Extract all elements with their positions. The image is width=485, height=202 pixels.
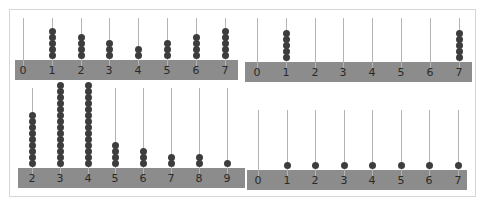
rod-label: 6	[136, 173, 150, 185]
bead	[284, 162, 291, 169]
rod	[23, 18, 24, 66]
rod-label: 6	[423, 67, 437, 79]
rod	[430, 18, 431, 68]
rod-label: 3	[53, 173, 67, 185]
bead	[456, 48, 463, 55]
bead	[106, 52, 113, 59]
bead	[283, 36, 290, 43]
rod-label: 2	[308, 67, 322, 79]
rod-label: 3	[336, 67, 350, 79]
bead	[85, 88, 92, 95]
bead	[341, 162, 348, 169]
bead	[78, 46, 85, 53]
bead	[164, 52, 171, 59]
bead	[57, 136, 64, 143]
bead	[29, 154, 36, 161]
rod-label: 0	[251, 175, 265, 187]
bead	[106, 46, 113, 53]
bead	[78, 52, 85, 59]
bead	[57, 82, 64, 89]
bead	[85, 112, 92, 119]
bead	[57, 106, 64, 113]
bead	[85, 100, 92, 107]
bead	[193, 34, 200, 41]
bead	[49, 52, 56, 59]
bead	[193, 46, 200, 53]
bead	[29, 112, 36, 119]
rod-label: 7	[451, 175, 465, 187]
bead	[85, 106, 92, 113]
bead	[164, 46, 171, 53]
bead	[49, 46, 56, 53]
bead	[57, 124, 64, 131]
rod	[401, 18, 402, 68]
rod-label: 4	[365, 175, 379, 187]
rod-label: 1	[279, 67, 293, 79]
rod-label: 1	[45, 65, 59, 77]
bead	[283, 42, 290, 49]
bead	[29, 136, 36, 143]
bead	[49, 28, 56, 35]
bead	[29, 118, 36, 125]
bead	[456, 42, 463, 49]
bead	[164, 40, 171, 47]
bead	[224, 160, 231, 167]
rod-label: 5	[394, 67, 408, 79]
bead	[455, 162, 462, 169]
bead	[57, 94, 64, 101]
bead	[398, 162, 405, 169]
bead	[78, 40, 85, 47]
bead	[222, 52, 229, 59]
bead	[29, 124, 36, 131]
bead	[85, 118, 92, 125]
bead	[222, 28, 229, 35]
bead	[57, 148, 64, 155]
bead	[29, 148, 36, 155]
bead	[78, 34, 85, 41]
rod	[258, 110, 259, 176]
bead	[222, 46, 229, 53]
bead	[49, 40, 56, 47]
bead	[85, 148, 92, 155]
bead	[112, 154, 119, 161]
bead	[85, 82, 92, 89]
bead	[29, 142, 36, 149]
rod-label: 2	[74, 65, 88, 77]
bead	[57, 154, 64, 161]
rod-label: 8	[192, 173, 206, 185]
rod-label: 5	[108, 173, 122, 185]
bead	[29, 130, 36, 137]
bead	[312, 162, 319, 169]
bead	[85, 136, 92, 143]
rod	[343, 18, 344, 68]
bead	[140, 148, 147, 155]
bead	[135, 46, 142, 53]
rod	[257, 18, 258, 68]
bead	[140, 154, 147, 161]
rod-label: 3	[337, 175, 351, 187]
rod-label: 9	[220, 173, 234, 185]
bead	[283, 54, 290, 61]
rod-label: 1	[280, 175, 294, 187]
bead	[112, 160, 119, 167]
rod-label: 0	[250, 67, 264, 79]
bead	[85, 142, 92, 149]
bead	[29, 160, 36, 167]
rod-label: 3	[102, 65, 116, 77]
bead	[369, 162, 376, 169]
bead	[57, 118, 64, 125]
rod-label: 6	[422, 175, 436, 187]
bead	[85, 94, 92, 101]
bead	[57, 130, 64, 137]
bead	[222, 34, 229, 41]
rod-label: 6	[189, 65, 203, 77]
bead	[57, 160, 64, 167]
bead	[49, 34, 56, 41]
bead	[57, 142, 64, 149]
bead	[135, 52, 142, 59]
rod	[315, 18, 316, 68]
bead	[426, 162, 433, 169]
bead	[456, 30, 463, 37]
bead	[57, 88, 64, 95]
bead	[57, 100, 64, 107]
